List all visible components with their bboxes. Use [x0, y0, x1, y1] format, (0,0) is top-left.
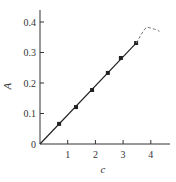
y-axis-label: A — [1, 82, 13, 90]
dashed-curve — [136, 27, 159, 43]
x-ticks: 1234 — [65, 140, 153, 160]
x-tick-label: 2 — [93, 149, 98, 160]
x-tick-label: 1 — [65, 149, 70, 160]
y-tick-label: 0.2 — [24, 78, 37, 89]
x-axis-label: c — [101, 163, 106, 175]
x-tick-label: 4 — [148, 149, 153, 160]
x-tick-label: 3 — [121, 149, 126, 160]
y-tick-label: 0.4 — [24, 17, 37, 28]
y-tick-label: 0.3 — [24, 47, 37, 58]
y-tick-label: 0 — [31, 139, 36, 150]
chart: 1234 00.10.20.30.4 c A — [0, 0, 176, 182]
y-tick-label: 0.1 — [24, 108, 37, 119]
y-ticks: 00.10.20.30.4 — [24, 17, 45, 150]
fit-line — [40, 43, 136, 144]
plot-area — [40, 27, 159, 144]
